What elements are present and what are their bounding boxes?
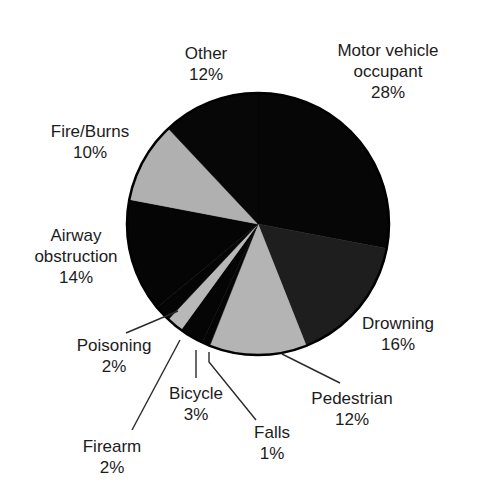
label-percent: 3% [169, 404, 223, 425]
label-fire-burns: Fire/Burns10% [51, 121, 129, 163]
label-poisoning: Poisoning2% [77, 335, 152, 377]
label-drowning: Drowning16% [362, 313, 434, 355]
label-text: Bicycle [169, 383, 223, 404]
label-percent: 2% [83, 457, 142, 478]
label-percent: 28% [337, 82, 438, 103]
label-percent: 12% [311, 409, 392, 430]
label-percent: 12% [185, 64, 228, 85]
label-text: obstruction [34, 246, 117, 267]
label-text: Falls [254, 422, 290, 443]
label-text: Firearm [83, 436, 142, 457]
label-text: Drowning [362, 313, 434, 334]
label-percent: 1% [254, 443, 290, 464]
leader-line-pedestrian [282, 354, 340, 383]
label-bicycle: Bicycle3% [169, 383, 223, 425]
label-motor-vehicle-occupant: Motor vehicleoccupant28% [337, 40, 438, 103]
label-pedestrian: Pedestrian12% [311, 388, 392, 430]
label-text: Pedestrian [311, 388, 392, 409]
label-other: Other12% [185, 43, 228, 85]
label-airway-obstruction: Airwayobstruction14% [34, 225, 117, 288]
label-text: Other [185, 43, 228, 64]
pie-slice-motor-vehicle-occupant [258, 93, 389, 249]
label-text: Airway [34, 225, 117, 246]
label-percent: 2% [77, 356, 152, 377]
label-text: Fire/Burns [51, 121, 129, 142]
label-falls: Falls1% [254, 422, 290, 464]
label-text: Motor vehicle [337, 40, 438, 61]
label-firearm: Firearm2% [83, 436, 142, 478]
label-percent: 10% [51, 142, 129, 163]
label-text: Poisoning [77, 335, 152, 356]
label-text: occupant [337, 61, 438, 82]
label-percent: 16% [362, 334, 434, 355]
label-percent: 14% [34, 267, 117, 288]
